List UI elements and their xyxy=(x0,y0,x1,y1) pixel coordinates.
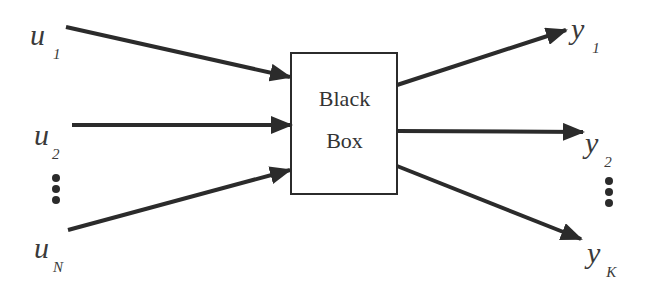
output-label-yK: yK xyxy=(587,236,610,270)
box-label-line1: Black xyxy=(291,86,398,112)
output-arrow-yK xyxy=(397,166,581,239)
input-arrow-uN xyxy=(68,170,290,230)
input-label-u1: u1 xyxy=(30,18,53,52)
ellipsis-right-icon xyxy=(605,177,613,207)
output-arrow-y2 xyxy=(397,131,583,132)
input-label-u2: u2 xyxy=(34,118,57,152)
input-arrow-u1 xyxy=(66,27,290,77)
input-label-uN: uN xyxy=(34,231,59,265)
ellipsis-left-icon xyxy=(52,174,60,204)
output-label-y1: y1 xyxy=(571,12,592,46)
black-box xyxy=(291,53,397,194)
output-arrow-y1 xyxy=(397,30,566,85)
output-label-y2: y2 xyxy=(585,126,606,160)
box-label-line2: Box xyxy=(291,128,398,154)
